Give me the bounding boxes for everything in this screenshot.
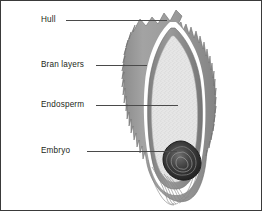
leader-line-hull [66, 20, 167, 21]
leader-line-bran [96, 65, 147, 66]
label-embryo: Embryo [41, 146, 70, 156]
leader-line-endosperm [96, 105, 178, 106]
label-bran-layers: Bran layers [41, 60, 84, 70]
label-hull: Hull [41, 15, 56, 25]
label-endosperm: Endosperm [41, 100, 84, 110]
grain-anatomy-figure: Hull Bran layers Endosperm Embryo [0, 0, 262, 211]
leader-line-embryo [87, 151, 177, 152]
